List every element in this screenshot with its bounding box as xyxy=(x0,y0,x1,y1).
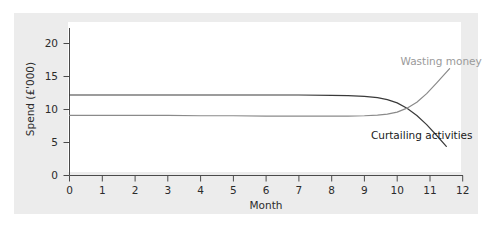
curtailing-activities-label: Curtailing activities xyxy=(371,129,473,141)
x-tick-label-4: 4 xyxy=(197,184,204,196)
x-tick-label-2: 2 xyxy=(132,184,139,196)
y-tick-label-5: 5 xyxy=(51,136,58,148)
y-tick-label-0: 0 xyxy=(51,169,58,181)
x-axis-ticks xyxy=(70,176,463,182)
x-tick-label-8: 8 xyxy=(328,184,335,196)
y-tick-label-15: 15 xyxy=(45,70,58,82)
chart-plot-svg: 0 5 10 15 20 0 1 2 3 4 5 6 7 8 xyxy=(0,0,492,230)
chart-figure: 0 5 10 15 20 0 1 2 3 4 5 6 7 8 xyxy=(0,0,492,230)
x-tick-label-5: 5 xyxy=(230,184,237,196)
x-tick-label-12: 12 xyxy=(456,184,469,196)
x-tick-label-6: 6 xyxy=(263,184,270,196)
y-tick-label-20: 20 xyxy=(45,37,58,49)
x-tick-label-7: 7 xyxy=(296,184,303,196)
x-axis-title: Month xyxy=(250,199,283,211)
x-tick-label-9: 9 xyxy=(361,184,368,196)
x-tick-label-3: 3 xyxy=(164,184,171,196)
x-tick-label-10: 10 xyxy=(391,184,404,196)
x-tick-label-0: 0 xyxy=(66,184,73,196)
y-axis-title: Spend (£'000) xyxy=(24,62,36,136)
x-tick-label-11: 11 xyxy=(423,184,436,196)
wasting-money-label: Wasting money xyxy=(400,55,481,67)
plot-area-background xyxy=(68,22,461,172)
y-tick-label-10: 10 xyxy=(45,103,58,115)
x-tick-label-1: 1 xyxy=(99,184,106,196)
